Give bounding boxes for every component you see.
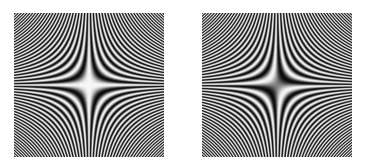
right-pattern-image	[202, 13, 352, 157]
left-pattern-canvas	[14, 13, 164, 157]
left-pattern-image	[14, 13, 164, 157]
right-pattern-canvas	[202, 13, 352, 157]
